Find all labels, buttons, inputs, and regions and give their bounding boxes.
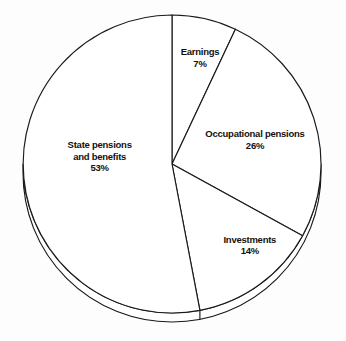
- pie-label-earnings-value: 7%: [181, 57, 220, 69]
- pie-label-earnings-name: Earnings: [181, 46, 220, 58]
- pie-chart: Earnings 7% Occupational pensions 26% In…: [0, 0, 346, 341]
- pie-label-occupational-pensions-value: 26%: [205, 139, 304, 151]
- pie-label-occupational-pensions: Occupational pensions 26%: [205, 128, 304, 151]
- pie-label-occupational-pensions-name: Occupational pensions: [205, 128, 304, 140]
- pie-label-investments-value: 14%: [223, 245, 276, 257]
- pie-label-earnings: Earnings 7%: [181, 46, 220, 69]
- pie-label-state-pensions-value: 53%: [68, 162, 132, 174]
- pie-chart-graphic: [0, 0, 346, 341]
- pie-label-state-pensions-and-benefits: State pensions and benefits 53%: [68, 139, 132, 174]
- pie-label-state-pensions-name-line2: and benefits: [68, 150, 132, 162]
- pie-label-investments-name: Investments: [223, 233, 276, 245]
- pie-label-investments: Investments 14%: [223, 233, 276, 256]
- pie-label-state-pensions-name-line1: State pensions: [68, 139, 132, 151]
